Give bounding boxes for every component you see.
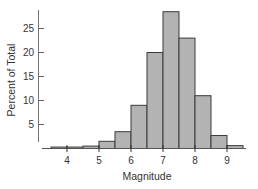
y-tick-label: 10 — [23, 95, 35, 106]
histogram-chart: 510152025 456789 Magnitude Percent of To… — [0, 0, 258, 189]
histogram-bar — [99, 141, 115, 148]
histogram-bar — [115, 132, 131, 149]
y-tick-label: 20 — [23, 47, 35, 58]
x-tick-label: 9 — [224, 155, 230, 166]
histogram-bars — [51, 12, 243, 149]
y-tick-label: 5 — [28, 119, 34, 130]
histogram-bar — [163, 12, 179, 149]
y-tick-label: 25 — [23, 23, 35, 34]
histogram-bar — [211, 136, 227, 149]
x-tick-label: 8 — [192, 155, 198, 166]
y-axis-ticks: 510152025 — [23, 23, 44, 130]
histogram-bar — [131, 105, 147, 148]
x-tick-label: 6 — [128, 155, 134, 166]
histogram-bar — [195, 96, 211, 149]
x-tick-label: 7 — [160, 155, 166, 166]
x-tick-label: 5 — [96, 155, 102, 166]
histogram-bar — [179, 38, 195, 148]
x-axis-label: Magnitude — [122, 170, 171, 182]
y-axis-label: Percent of Total — [5, 44, 17, 117]
x-tick-label: 4 — [64, 155, 70, 166]
histogram-bar — [147, 53, 163, 149]
y-tick-label: 15 — [23, 71, 35, 82]
